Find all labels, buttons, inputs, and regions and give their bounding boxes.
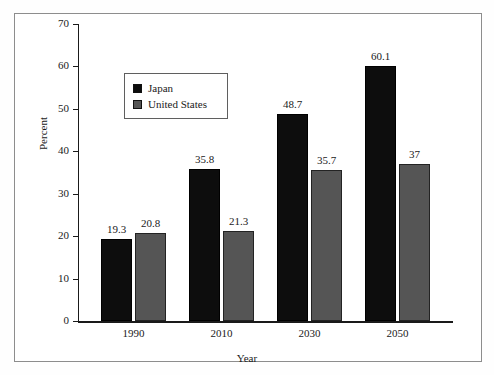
y-tick-40: 40 <box>78 151 79 152</box>
y-axis-line <box>78 24 79 322</box>
y-tick-label: 10 <box>58 271 69 286</box>
x-tick-label-2030: 2030 <box>299 327 321 339</box>
y-tick-50: 50 <box>78 109 79 110</box>
plot-area: 70 60 50 40 30 20 10 0 <box>78 24 452 321</box>
y-tick-mark <box>73 321 78 322</box>
chart-figure: Percent Year 70 60 50 40 30 20 <box>0 0 494 375</box>
bar-group-2010: 35.8 21.3 2010 <box>189 24 254 321</box>
x-axis-title: Year <box>0 352 494 364</box>
legend-label-japan: Japan <box>148 81 173 95</box>
legend-item-united-states[interactable]: United States <box>133 96 220 112</box>
y-tick-mark <box>73 66 78 67</box>
y-tick-mark <box>73 24 78 25</box>
x-axis-line <box>78 321 453 323</box>
chart-legend: Japan United States <box>124 73 228 119</box>
bar-value-label: 35.7 <box>317 154 336 167</box>
bar-japan-1990[interactable]: 19.3 <box>101 239 132 321</box>
bar-value-label: 20.8 <box>141 217 160 230</box>
bar-group-1990: 19.3 20.8 1990 <box>101 24 166 321</box>
bar-japan-2050[interactable]: 60.1 <box>365 66 396 321</box>
y-tick-label: 0 <box>64 313 70 328</box>
y-tick-20: 20 <box>78 236 79 237</box>
bar-value-label: 37 <box>409 148 420 161</box>
y-tick-60: 60 <box>78 66 79 67</box>
y-tick-mark <box>73 236 78 237</box>
y-axis-title: Percent <box>36 136 50 150</box>
x-tick-label-2010: 2010 <box>211 327 233 339</box>
y-tick-label: 40 <box>58 143 69 158</box>
x-tick-label-1990: 1990 <box>123 327 145 339</box>
y-tick-label: 50 <box>58 101 69 116</box>
bar-value-label: 19.3 <box>107 223 126 236</box>
bar-group-2050: 60.1 37 2050 <box>365 24 430 321</box>
bar-us-1990[interactable]: 20.8 <box>135 233 166 321</box>
bar-value-label: 60.1 <box>371 50 390 63</box>
legend-label-united-states: United States <box>148 97 207 111</box>
y-tick-30: 30 <box>78 194 79 195</box>
x-tick-label-2050: 2050 <box>387 327 409 339</box>
legend-swatch-japan-icon <box>133 84 142 93</box>
bar-value-label: 48.7 <box>283 98 302 111</box>
y-tick-10: 10 <box>78 279 79 280</box>
bar-japan-2010[interactable]: 35.8 <box>189 169 220 321</box>
bar-value-label: 21.3 <box>229 215 248 228</box>
bar-group-2030: 48.7 35.7 2030 <box>277 24 342 321</box>
y-tick-label: 60 <box>58 58 69 73</box>
y-tick-mark <box>73 194 78 195</box>
y-tick-label: 20 <box>58 228 69 243</box>
y-tick-0: 0 <box>78 321 79 322</box>
y-tick-70: 70 <box>78 24 79 25</box>
y-tick-mark <box>73 109 78 110</box>
bar-japan-2030[interactable]: 48.7 <box>277 114 308 321</box>
y-tick-label: 30 <box>58 186 69 201</box>
bar-us-2030[interactable]: 35.7 <box>311 170 342 322</box>
bar-value-label: 35.8 <box>195 153 214 166</box>
y-tick-label: 70 <box>58 16 69 31</box>
legend-item-japan[interactable]: Japan <box>133 80 220 96</box>
legend-swatch-united-states-icon <box>133 100 142 109</box>
bar-us-2050[interactable]: 37 <box>399 164 430 321</box>
bar-us-2010[interactable]: 21.3 <box>223 231 254 321</box>
y-tick-mark <box>73 279 78 280</box>
y-tick-mark <box>73 151 78 152</box>
